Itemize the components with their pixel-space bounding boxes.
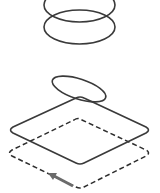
tilted-ring xyxy=(49,71,108,107)
top-ring xyxy=(44,0,115,22)
dashed-diamond xyxy=(10,119,149,189)
solid-diamond xyxy=(11,97,149,164)
second-ring xyxy=(44,10,115,44)
isometric-rings-diagram xyxy=(0,0,160,193)
direction-arrow-icon xyxy=(48,173,73,186)
